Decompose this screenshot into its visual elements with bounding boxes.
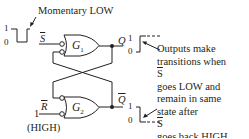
r-bar-input-label: R: [41, 101, 47, 112]
output-transition-note: Outputs make transitions when S goes LOW…: [157, 43, 249, 138]
q-bar-transition-arrow-icon: [143, 109, 157, 118]
q-output-label: Q: [118, 35, 126, 46]
momentary-low-label: Momentary LOW: [38, 5, 114, 16]
q-high-label: 1: [128, 33, 133, 44]
gate-g2-label: G2: [72, 102, 84, 118]
q-low-label: 0: [128, 46, 133, 57]
s-bar-pulse-waveform: [11, 29, 30, 42]
s-bar-waveform-high-label: 1: [4, 23, 9, 34]
q-bar-output-label: Q: [118, 94, 126, 105]
note-line: state after S: [157, 106, 249, 131]
s-bar-waveform-low-label: 0: [4, 37, 9, 48]
note-line: Outputs make: [157, 43, 249, 56]
r-bar-level-label: (HIGH): [27, 122, 60, 133]
q-bar-junction-dot: [110, 105, 114, 109]
q-bar-low-label: 0: [128, 115, 133, 126]
note-line: transitions when: [157, 56, 249, 69]
note-line: goes back HIGH.: [157, 131, 249, 139]
note-line: remain in same: [157, 93, 249, 106]
r-bar-level-value: 1: [34, 108, 39, 119]
momentary-low-arrow-icon: [30, 17, 36, 27]
gate-g1-label: G1: [72, 40, 84, 56]
note-line: S goes LOW and: [157, 68, 249, 93]
q-bar-high-label: 1: [128, 101, 133, 112]
s-bar-input-label: S: [40, 33, 45, 44]
